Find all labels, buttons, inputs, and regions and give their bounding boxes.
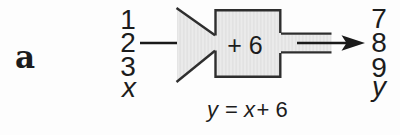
formula-constant: + 6 bbox=[257, 97, 288, 122]
formula-variable: x bbox=[243, 97, 256, 122]
formula-lhs: y bbox=[205, 97, 220, 122]
input-column: 1 2 3 x bbox=[120, 4, 137, 104]
function-machine-diagram: a 1 2 3 x + 6 7 bbox=[0, 0, 400, 135]
funnel-shape bbox=[177, 9, 215, 82]
operation-label: + 6 bbox=[227, 31, 262, 59]
formula: y = x + 6 bbox=[205, 97, 288, 122]
output-column: 7 8 9 y bbox=[370, 3, 388, 102]
function-machine-figure: a 1 2 3 x + 6 7 bbox=[0, 0, 400, 135]
input-variable: x bbox=[120, 72, 137, 103]
formula-equals: = bbox=[225, 97, 238, 122]
part-label: a bbox=[15, 39, 35, 75]
output-variable: y bbox=[370, 71, 388, 102]
